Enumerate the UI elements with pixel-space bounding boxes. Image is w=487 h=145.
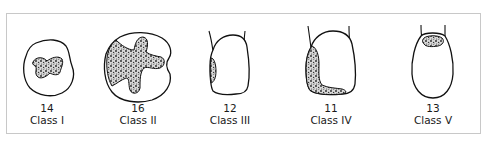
- tooth-14-class-1: [24, 40, 74, 96]
- tooth-number: 11: [291, 102, 371, 114]
- tooth-12-root-left: [209, 31, 213, 51]
- tooth-16-class-2: [104, 33, 170, 102]
- tooth-label-12: 12 Class III: [190, 102, 270, 126]
- tooth-number: 12: [190, 102, 270, 114]
- tooth-number: 14: [7, 102, 87, 114]
- class-5-cervical-cavity: [423, 36, 444, 47]
- tooth-label-11: 11 Class IV: [291, 102, 371, 126]
- tooth-11-class-4: [306, 26, 355, 95]
- tooth-13-class-5: [412, 25, 453, 98]
- cavity-class: Class I: [7, 114, 87, 126]
- tooth-label-16: 16 Class II: [98, 102, 178, 126]
- tooth-11-root-left: [308, 26, 311, 48]
- tooth-label-14: 14 Class I: [7, 102, 87, 126]
- tooth-label-13: 13 Class V: [393, 102, 473, 126]
- cavity-class: Class III: [190, 114, 270, 126]
- cavity-class: Class IV: [291, 114, 371, 126]
- tooth-number: 13: [393, 102, 473, 114]
- cavity-class: Class V: [393, 114, 473, 126]
- tooth-number: 16: [98, 102, 178, 114]
- class-1-occlusal-cavity: [33, 57, 63, 78]
- cavity-class: Class II: [98, 114, 178, 126]
- tooth-12-class-3: [209, 31, 249, 95]
